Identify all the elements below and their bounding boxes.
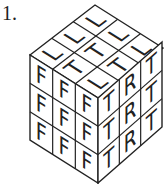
left-face-sticker: F — [36, 115, 47, 151]
letter-cube-figure: LLLTTLLTLFFFFFFFFFTRTTRTTRT — [0, 0, 165, 184]
left-face-sticker: F — [81, 144, 92, 180]
left-face-sticker: F — [58, 129, 69, 165]
